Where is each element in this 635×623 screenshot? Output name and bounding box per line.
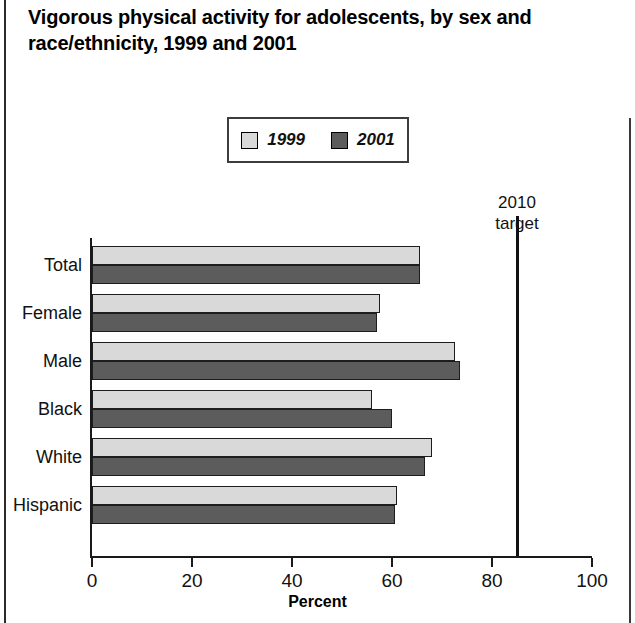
- x-tick-label-20: 20: [181, 570, 202, 592]
- plot-area: 020406080100: [92, 238, 592, 556]
- bar-male-1999: [92, 342, 455, 361]
- bar-white-2001: [92, 457, 425, 476]
- target-label: 2010 target: [495, 192, 538, 234]
- x-tick-label-60: 60: [381, 570, 402, 592]
- x-tick-label-80: 80: [481, 570, 502, 592]
- x-tick-label-100: 100: [576, 570, 608, 592]
- target-line: [516, 216, 519, 556]
- x-tick-0: [91, 558, 93, 567]
- bar-male-2001: [92, 361, 460, 380]
- x-tick-label-0: 0: [87, 570, 98, 592]
- legend-item-2001: 2001: [331, 130, 395, 150]
- bar-female-2001: [92, 313, 377, 332]
- category-label-white: White: [36, 447, 82, 468]
- x-tick-80: [491, 558, 493, 567]
- x-axis-title: Percent: [0, 593, 635, 611]
- legend-swatch-1999: [241, 132, 258, 149]
- category-label-hispanic: Hispanic: [13, 495, 82, 516]
- bar-female-1999: [92, 294, 380, 313]
- x-tick-label-40: 40: [281, 570, 302, 592]
- category-axis-labels: TotalFemaleMaleBlackWhiteHispanic: [0, 238, 82, 556]
- bar-white-1999: [92, 438, 432, 457]
- bar-total-1999: [92, 246, 420, 265]
- legend-item-1999: 1999: [241, 130, 305, 150]
- chart-legend: 1999 2001: [227, 117, 409, 163]
- page-border-right: [629, 118, 631, 623]
- category-label-total: Total: [44, 255, 82, 276]
- bar-black-1999: [92, 390, 372, 409]
- x-tick-60: [391, 558, 393, 567]
- legend-label-2001: 2001: [357, 130, 395, 150]
- x-axis-line: [90, 556, 592, 558]
- bar-total-2001: [92, 265, 420, 284]
- category-label-male: Male: [43, 351, 82, 372]
- x-tick-20: [191, 558, 193, 567]
- bar-hispanic-2001: [92, 505, 395, 524]
- bar-hispanic-1999: [92, 486, 397, 505]
- chart-title: Vigorous physical activity for adolescen…: [28, 4, 613, 56]
- bar-black-2001: [92, 409, 392, 428]
- x-tick-100: [591, 558, 593, 567]
- chart-page: Vigorous physical activity for adolescen…: [0, 0, 635, 623]
- legend-label-1999: 1999: [267, 130, 305, 150]
- category-label-female: Female: [22, 303, 82, 324]
- category-label-black: Black: [38, 399, 82, 420]
- legend-swatch-2001: [331, 132, 348, 149]
- x-tick-40: [291, 558, 293, 567]
